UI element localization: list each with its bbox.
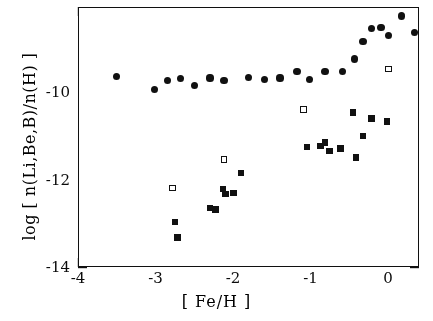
data-point-square: [368, 115, 374, 121]
scatter-plot-figure: -4 -3 -2 -1 0 -10 -12 -14 [ Fe/H ] log […: [0, 0, 433, 321]
x-tick-label-4: 0: [383, 271, 393, 286]
data-point-circle: [206, 74, 213, 81]
data-point-circle: [220, 77, 227, 84]
data-point-square: [353, 154, 359, 160]
x-tick-label-2: -2: [226, 271, 241, 286]
data-point-square: [304, 144, 310, 150]
data-point-square: [172, 219, 178, 225]
data-point-square: [212, 206, 218, 212]
data-point-open-square: [221, 156, 228, 163]
data-point-square: [322, 139, 328, 145]
plot-frame: [78, 7, 419, 267]
data-point-circle: [339, 68, 346, 75]
data-point-circle: [261, 76, 268, 83]
data-point-circle: [276, 74, 283, 81]
data-point-circle: [377, 24, 384, 31]
x-tick-label-1: -3: [148, 271, 163, 286]
data-point-square: [174, 234, 180, 240]
x-tick-label-0: -4: [71, 271, 86, 286]
data-point-circle: [191, 82, 198, 89]
y-tick-label-minus12: -12: [36, 173, 70, 188]
data-point-circle: [293, 68, 300, 75]
data-point-circle: [359, 38, 366, 45]
data-point-open-square: [385, 66, 392, 73]
data-point-square: [350, 109, 356, 115]
data-point-square: [337, 145, 343, 151]
data-point-square: [326, 148, 332, 154]
x-tick-label-3: -1: [303, 271, 318, 286]
data-point-open-square: [169, 185, 176, 192]
data-point-circle: [368, 25, 375, 32]
data-point-square: [230, 190, 236, 196]
y-tick-label-minus14: -14: [36, 260, 70, 275]
data-point-open-square: [300, 106, 307, 113]
data-point-square: [360, 133, 366, 139]
x-axis-label: [ Fe/H ]: [0, 292, 433, 311]
data-point-square: [222, 191, 228, 197]
data-point-circle: [321, 68, 328, 75]
data-point-square: [238, 170, 244, 176]
data-point-square: [384, 118, 390, 124]
y-tick-label-minus10: -10: [36, 85, 70, 100]
data-point-circle: [351, 55, 358, 62]
y-axis-label: log [ n(Li,Be,B)/n(H) ]: [20, 22, 39, 272]
data-point-circle: [151, 86, 158, 93]
